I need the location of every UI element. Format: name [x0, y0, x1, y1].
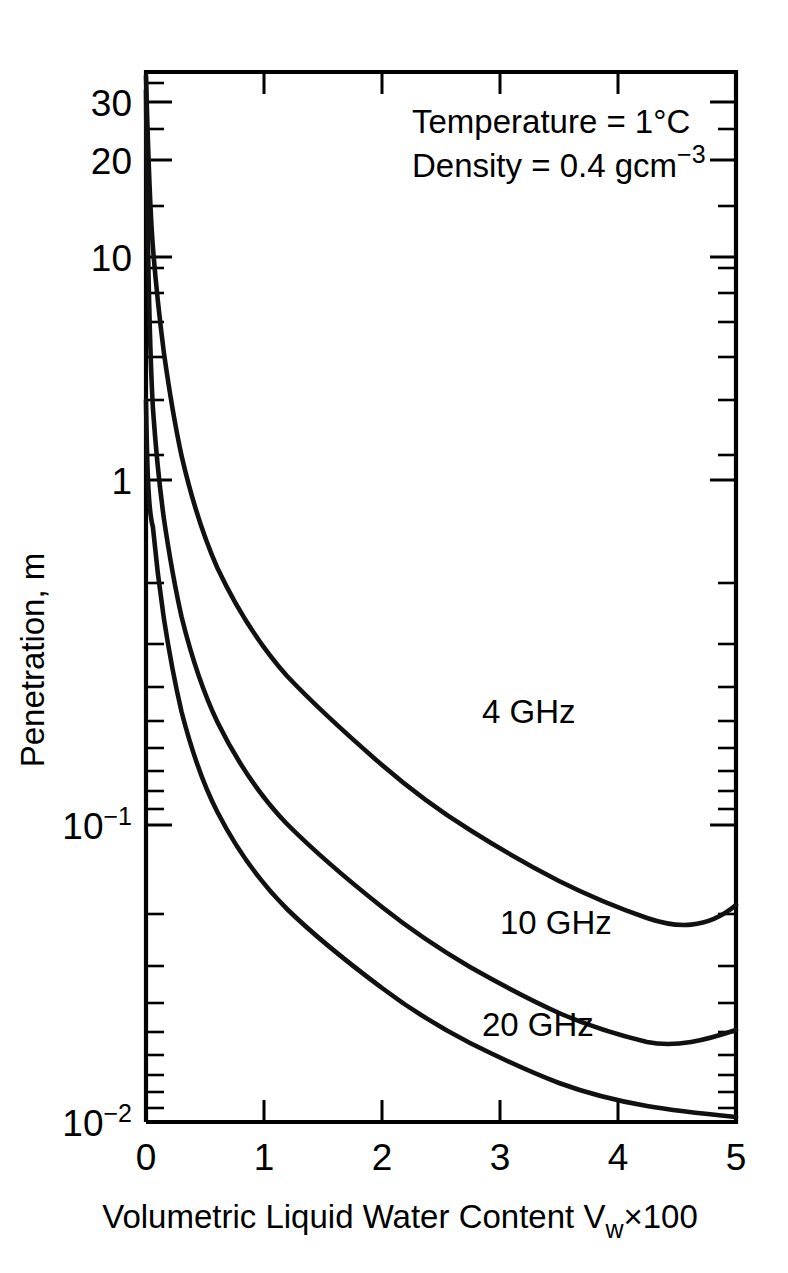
xtick-label-0: 0 [136, 1137, 157, 1178]
y-axis-title: Penetration, m [14, 553, 51, 768]
x-axis-ticks [146, 1100, 736, 1122]
ytick-label-1: 1 [111, 461, 132, 502]
x-axis-title-subscript: w [604, 1215, 624, 1243]
ytick-0.01-base: 10 [62, 1103, 103, 1144]
figure-container: 30 20 10 1 10−1 10−2 0 1 2 3 4 5 Volumet… [0, 0, 788, 1273]
x-axis-top-ticks [264, 72, 618, 94]
right-axis-major-ticks [710, 102, 736, 825]
curve-10ghz [146, 90, 736, 1044]
annotation-density-text: Density = 0.4 gcm [412, 147, 677, 184]
xtick-label-2: 2 [372, 1137, 393, 1178]
right-axis-minor-ticks [718, 129, 736, 1108]
ytick-label-30: 30 [91, 83, 132, 124]
x-axis-title: Volumetric Liquid Water Content Vw×100 [102, 1198, 698, 1243]
ytick-label-10: 10 [91, 238, 132, 279]
curve-label-20ghz: 20 GHz [482, 1006, 594, 1043]
xtick-label-1: 1 [254, 1137, 275, 1178]
annotation-density: Density = 0.4 gcm−3 [412, 140, 706, 184]
curve-label-4ghz: 4 GHz [482, 693, 576, 730]
curve-20ghz [146, 400, 736, 1117]
xtick-label-3: 3 [490, 1137, 511, 1178]
x-axis-title-main: Volumetric Liquid Water Content V [102, 1198, 605, 1235]
ytick-label-0.01: 10−2 [62, 1099, 132, 1144]
ytick-0.1-exponent: −1 [103, 802, 132, 830]
annotation-temperature: Temperature = 1°C [412, 103, 690, 140]
ytick-0.01-exponent: −2 [103, 1099, 132, 1127]
penetration-depth-chart: 30 20 10 1 10−1 10−2 0 1 2 3 4 5 Volumet… [0, 0, 788, 1273]
curve-label-10ghz: 10 GHz [500, 904, 612, 941]
annotation-density-exponent: −3 [677, 140, 706, 168]
xtick-label-4: 4 [608, 1137, 629, 1178]
xtick-label-5: 5 [726, 1137, 747, 1178]
ytick-label-0.1: 10−1 [62, 802, 132, 847]
ytick-0.1-base: 10 [62, 806, 103, 847]
ytick-label-20: 20 [91, 141, 132, 182]
x-axis-title-tail: ×100 [623, 1198, 697, 1235]
curve-4ghz [146, 76, 736, 925]
